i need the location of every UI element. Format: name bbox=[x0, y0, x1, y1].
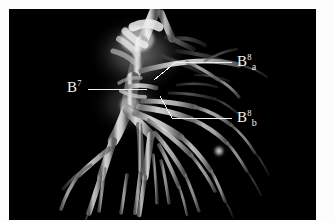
label-b8a-subscript: a bbox=[252, 61, 257, 72]
bronchial-tree-render bbox=[9, 9, 316, 220]
label-b8b-subscript: b bbox=[252, 117, 257, 128]
label-b8a-base: B bbox=[237, 53, 247, 69]
annotation-label-b7: B7 bbox=[67, 80, 82, 95]
ct-rendering-panel bbox=[9, 9, 316, 220]
figure-root: B7 B8a B8b bbox=[0, 0, 334, 222]
label-b8b-base: B bbox=[237, 109, 247, 125]
label-b7-superscript: 7 bbox=[77, 78, 81, 88]
annotation-label-b8a: B8a bbox=[237, 54, 256, 69]
annotation-label-b8b: B8b bbox=[237, 110, 257, 125]
label-b7-base: B bbox=[67, 79, 77, 95]
